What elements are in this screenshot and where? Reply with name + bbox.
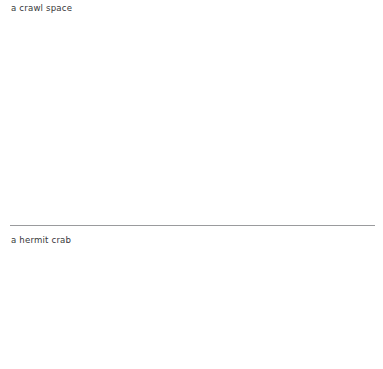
entry-hermit-crab: a hermit crab [11,235,71,246]
section-divider [10,225,375,226]
entry-crawl-space: a crawl space [11,3,72,14]
document-page: a crawl space a hermit crab [0,0,383,369]
